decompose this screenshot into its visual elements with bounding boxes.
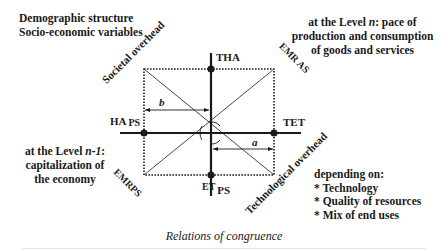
figure-caption: Relations of congruence — [0, 229, 448, 244]
dimension-b-arrowhead-left — [145, 108, 150, 112]
production-consumption-text: production and consumption — [290, 29, 435, 43]
dot-ha-ps — [140, 129, 147, 136]
level-n-1-italic: n-1 — [85, 145, 101, 157]
ha-ps-label: HAPS — [110, 116, 140, 127]
ha-text: HA — [110, 115, 127, 127]
et-text: ET — [202, 181, 215, 192]
dependency-item-mix: * Mix of end uses — [314, 209, 421, 223]
level-n-1-block: at the Level n-1: capitalization of the … — [20, 144, 110, 186]
segment-a-label: a — [252, 137, 258, 148]
level-n-heading: at the Level n: pace of — [290, 15, 435, 29]
segment-b-label: b — [159, 97, 165, 108]
depending-on-block: depending on: * Technology * Quality of … — [314, 168, 421, 222]
socio-economic-variables-text: Socio-economic variables — [19, 25, 143, 39]
tet-label: TET — [283, 117, 305, 128]
level-n-block: at the Level n: pace of production and c… — [290, 15, 435, 57]
dimension-a-arrowhead-left — [213, 147, 218, 151]
dot-tet — [270, 129, 277, 136]
ha-subscript: PS — [129, 117, 141, 128]
goods-services-text: of goods and services — [290, 43, 435, 57]
economy-text: the economy — [20, 172, 110, 186]
angle-arc-upper-right — [211, 122, 220, 126]
tha-label: THA — [216, 52, 240, 63]
capitalization-text: capitalization of — [20, 158, 110, 172]
depending-on-heading: depending on: — [314, 168, 421, 182]
level-n-1-heading: at the Level n-1: — [20, 144, 110, 158]
demographic-structure-text: Demographic structure — [19, 11, 143, 25]
dimension-b-arrowhead-right — [204, 108, 209, 112]
dot-et-ps — [207, 171, 214, 178]
et-ps-label: ETPS — [202, 181, 230, 192]
dimension-a-arrowhead-right — [268, 147, 273, 151]
demographic-block: Demographic structure Socio-economic var… — [19, 11, 143, 39]
dependency-item-technology: * Technology — [314, 182, 421, 196]
bottom-divider — [22, 248, 426, 249]
et-subscript: PS — [217, 184, 230, 196]
angle-arc-lower-right — [211, 140, 220, 144]
dependency-item-quality: * Quality of resources — [314, 195, 421, 209]
dot-tha — [207, 65, 214, 72]
